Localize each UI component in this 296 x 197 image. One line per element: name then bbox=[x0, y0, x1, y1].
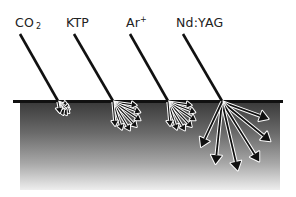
label-argon: Ar+ bbox=[126, 15, 147, 30]
label-ndyag: Nd:YAG bbox=[176, 15, 223, 30]
laser-penetration-diagram: CO2 KTP Ar+ Nd:YAG bbox=[0, 0, 296, 197]
diagram-canvas bbox=[0, 0, 296, 197]
label-co2-main: CO bbox=[15, 15, 34, 30]
label-argon-main: Ar bbox=[126, 15, 140, 30]
label-co2-subscript: 2 bbox=[36, 22, 41, 31]
incident-beam-ar bbox=[130, 34, 168, 101]
tissue-surface-line bbox=[13, 100, 283, 103]
incident-beam-ndyag bbox=[183, 34, 222, 101]
label-ndyag-main: Nd:YAG bbox=[176, 15, 223, 30]
label-argon-superscript: + bbox=[140, 15, 147, 24]
label-ktp-main: KTP bbox=[66, 15, 89, 30]
label-co2: CO2 bbox=[15, 15, 41, 31]
incident-beam-ktp bbox=[74, 34, 113, 101]
label-ktp: KTP bbox=[66, 15, 89, 30]
incident-beam-co2 bbox=[20, 34, 58, 101]
